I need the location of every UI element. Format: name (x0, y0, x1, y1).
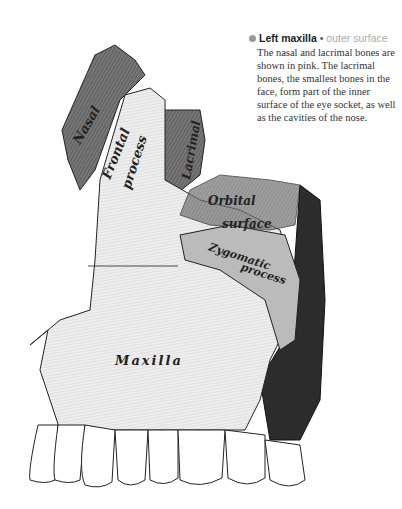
teeth (30, 425, 305, 487)
label-orbital: Orbital (208, 194, 256, 208)
caption-heading: Left maxilla • outer surface (249, 32, 399, 45)
bullet-dot-icon (249, 35, 256, 42)
label-surface: surface (222, 217, 272, 231)
caption: Left maxilla • outer surface The nasal a… (249, 32, 399, 124)
label-maxilla: Maxilla (114, 353, 183, 368)
caption-body: The nasal and lacrimal bones are shown i… (257, 46, 399, 124)
caption-separator: • (320, 32, 324, 44)
caption-title: Left maxilla (259, 32, 317, 44)
caption-subtitle: outer surface (326, 32, 387, 44)
